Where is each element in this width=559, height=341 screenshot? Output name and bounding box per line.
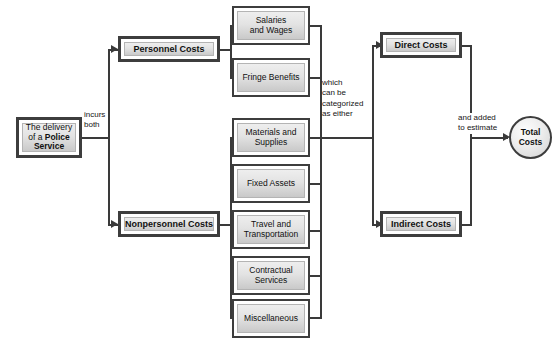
node-nonpersonnel-costs-label: Nonpersonnel Costs [124,217,214,231]
arrowhead-nonpersonnel [111,220,118,228]
node-materials-and-supplies-label: Materials and Supplies [237,123,305,152]
node-fixed-assets[interactable]: Fixed Assets [232,164,310,203]
node-direct-costs[interactable]: Direct Costs [380,32,462,58]
node-nonpersonnel-costs[interactable]: Nonpersonnel Costs [118,211,220,237]
node-fringe-benefits-label: Fringe Benefits [237,63,305,92]
node-miscellaneous[interactable]: Miscellaneous [232,299,310,338]
connector-source-split [108,50,110,225]
node-contractual-services-label: Contractual Services [237,261,305,290]
node-personnel-costs[interactable]: Personnel Costs [118,36,220,62]
arrowhead-personnel [111,45,118,53]
diagram-canvas: incurs both which can be categorized as … [0,0,559,341]
source-line-3: Service [34,142,64,152]
edge-label-added-to-estimate: and added to estimate [458,113,497,134]
node-indirect-costs[interactable]: Indirect Costs [380,211,462,237]
node-total-costs[interactable]: Total Costs [509,116,552,159]
node-materials-and-supplies[interactable]: Materials and Supplies [232,118,310,157]
node-travel-and-transportation[interactable]: Travel and Transportation [232,210,310,249]
node-police-service-plate: The delivery of a Police Service [22,123,76,152]
edge-label-categorized: which can be categorized as either [322,78,363,120]
edge-label-incurs-both: incurs both [84,110,105,131]
node-indirect-costs-label: Indirect Costs [386,217,456,231]
node-salaries-and-wages-label: Salaries and Wages [237,11,305,40]
node-travel-and-transportation-label: Travel and Transportation [237,215,305,244]
node-fringe-benefits[interactable]: Fringe Benefits [232,58,310,97]
node-contractual-services[interactable]: Contractual Services [232,256,310,295]
node-fixed-assets-label: Fixed Assets [237,169,305,198]
connector-gather-to-categories [320,137,374,139]
connector-categories-split [372,46,374,226]
node-police-service[interactable]: The delivery of a Police Service [16,117,82,158]
connector-items-gather-bar [320,25,322,319]
connector-source-out [80,137,110,139]
node-miscellaneous-label: Miscellaneous [237,304,305,333]
node-direct-costs-label: Direct Costs [386,38,456,52]
node-salaries-and-wages[interactable]: Salaries and Wages [232,6,310,45]
connector-categories-merge-bar [470,45,472,226]
node-personnel-costs-label: Personnel Costs [124,42,214,56]
